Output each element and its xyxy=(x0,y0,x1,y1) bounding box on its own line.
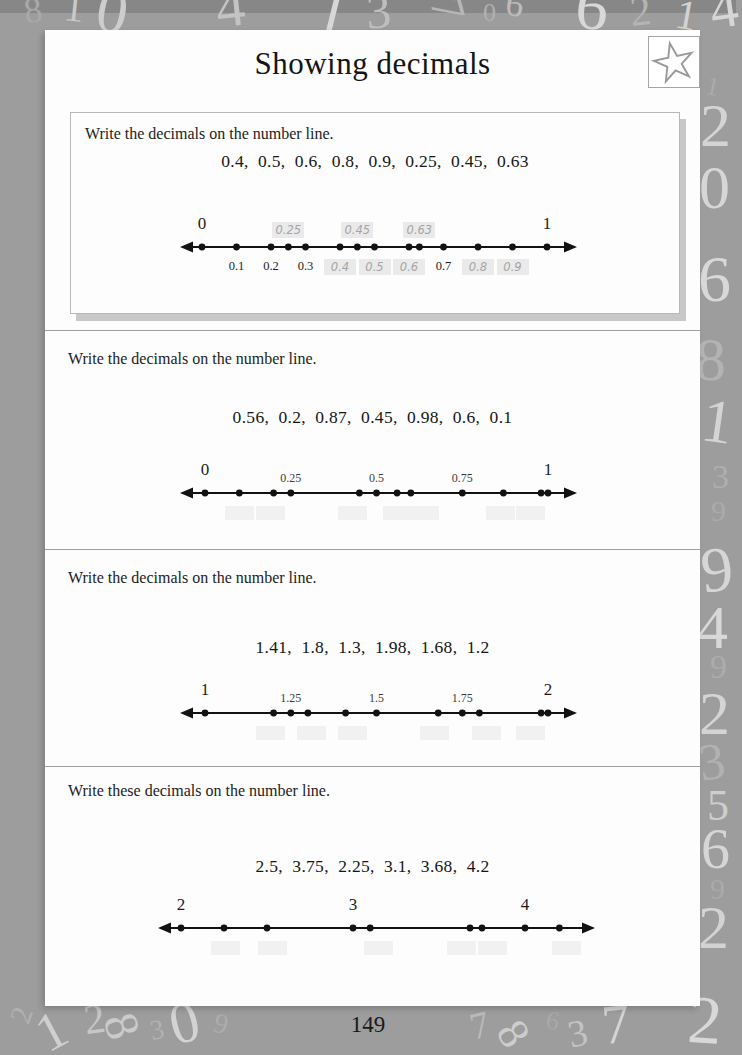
answer-box[interactable] xyxy=(338,726,367,740)
written-answer: 0.9 xyxy=(497,259,529,275)
answer-box[interactable] xyxy=(383,506,412,520)
answer-box[interactable] xyxy=(297,726,326,740)
endpoint-label: 1 xyxy=(530,214,564,234)
decorative-number: 1 xyxy=(698,388,737,454)
printed-label: 0.1 xyxy=(220,259,254,274)
answer-box[interactable] xyxy=(410,506,439,520)
page-number: 149 xyxy=(0,1012,736,1038)
answer-box[interactable] xyxy=(516,726,545,740)
answer-box[interactable] xyxy=(225,506,254,520)
answer-box[interactable] xyxy=(486,506,515,520)
tick-label: 1.75 xyxy=(442,691,482,706)
endpoint-label: 2 xyxy=(531,680,565,700)
answer-box[interactable] xyxy=(447,941,476,955)
number-line-1: 010.10.20.30.70.250.450.630.40.50.60.80.… xyxy=(45,202,700,297)
decorative-number: 4 xyxy=(706,0,742,38)
written-answer: 0.25 xyxy=(272,222,304,238)
tick-label: 0.5 xyxy=(357,471,397,486)
decorative-number: 2 xyxy=(628,0,653,33)
decorative-number: 3 xyxy=(712,460,729,494)
endpoint-label: 0 xyxy=(185,214,219,234)
worksheet-page: Showing decimals Write the decimals on t… xyxy=(45,30,700,1006)
answer-box[interactable] xyxy=(516,506,545,520)
answer-box[interactable] xyxy=(472,726,501,740)
answer-box[interactable] xyxy=(256,506,285,520)
star-icon xyxy=(649,37,699,87)
written-answer: 0.8 xyxy=(462,259,494,275)
written-answer: 0.45 xyxy=(341,222,373,238)
number-line-graphic xyxy=(45,448,700,543)
section-3-decimals-list: 1.41, 1.8, 1.3, 1.98, 1.68, 1.2 xyxy=(45,637,700,658)
decorative-number: 0 xyxy=(483,0,496,26)
section-1-prompt: Write the decimals on the number line. xyxy=(85,125,334,143)
section-1-decimals-list: 0.4, 0.5, 0.6, 0.8, 0.9, 0.25, 0.45, 0.6… xyxy=(71,151,679,172)
section-4-decimals-list: 2.5, 3.75, 2.25, 3.1, 3.68, 4.2 xyxy=(45,856,700,877)
star-badge xyxy=(648,36,700,88)
written-answer: 0.5 xyxy=(359,259,391,275)
answer-box[interactable] xyxy=(420,726,449,740)
endpoint-label: 3 xyxy=(336,895,370,915)
answer-box[interactable] xyxy=(478,941,507,955)
written-answer: 0.6 xyxy=(393,259,425,275)
section-3-prompt: Write the decimals on the number line. xyxy=(68,569,317,587)
decorative-number: 6 xyxy=(698,246,731,312)
tick-label: 0.75 xyxy=(442,471,482,486)
printed-label: 0.7 xyxy=(427,259,461,274)
number-line-4: 234 xyxy=(45,883,700,978)
decorative-number: 8 xyxy=(22,0,45,29)
answer-box[interactable] xyxy=(258,941,287,955)
answer-box[interactable] xyxy=(256,726,285,740)
endpoint-label: 1 xyxy=(188,680,222,700)
decorative-number: 6 xyxy=(701,820,730,878)
page-title: Showing decimals xyxy=(45,46,700,82)
decorative-number: 6 xyxy=(503,0,527,23)
decorative-number: 2 xyxy=(698,896,729,958)
section-2-decimals-list: 0.56, 0.2, 0.87, 0.45, 0.98, 0.6, 0.1 xyxy=(45,407,700,428)
endpoint-label: 1 xyxy=(531,460,565,480)
tick-label: 0.25 xyxy=(271,471,311,486)
number-line-2: 010.250.50.75 xyxy=(45,448,700,543)
written-answer: 0.4 xyxy=(324,259,356,275)
answer-box[interactable] xyxy=(552,941,581,955)
section-4-prompt: Write these decimals on the number line. xyxy=(68,782,330,800)
answer-box[interactable] xyxy=(338,506,367,520)
number-line-graphic xyxy=(45,668,700,763)
number-line-3: 121.251.51.75 xyxy=(45,668,700,763)
answer-box[interactable] xyxy=(211,941,240,955)
number-line-graphic xyxy=(45,883,700,978)
tick-label: 1.5 xyxy=(357,691,397,706)
decorative-number: 1 xyxy=(62,0,86,29)
endpoint-label: 2 xyxy=(164,895,198,915)
printed-label: 0.2 xyxy=(254,259,288,274)
decorative-number: 0 xyxy=(699,156,730,218)
decorative-number: 7 xyxy=(422,0,472,26)
decorative-number: 2 xyxy=(700,94,731,156)
endpoint-label: 0 xyxy=(188,460,222,480)
section-2-prompt: Write the decimals on the number line. xyxy=(68,350,317,368)
number-line-graphic xyxy=(45,202,700,297)
printed-label: 0.3 xyxy=(289,259,323,274)
decorative-number: 9 xyxy=(711,496,726,526)
written-answer: 0.63 xyxy=(403,222,435,238)
endpoint-label: 4 xyxy=(508,895,542,915)
answer-box[interactable] xyxy=(364,941,393,955)
tick-label: 1.25 xyxy=(271,691,311,706)
